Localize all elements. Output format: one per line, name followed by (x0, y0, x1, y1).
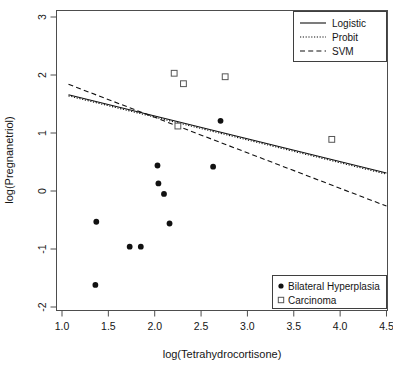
data-point (222, 74, 228, 80)
data-point (171, 70, 177, 76)
data-point (218, 118, 224, 124)
data-point (210, 164, 216, 170)
y-tick-label: 3 (36, 14, 48, 20)
y-tick-label: 1 (36, 130, 48, 136)
series-carcinoma-points (171, 70, 334, 142)
legend-marker-carcinoma (278, 297, 283, 302)
legend-model-fits: Logistic Probit SVM (294, 12, 387, 62)
chart-figure: 1.01.52.02.53.03.54.04.5 3210-1-2 log(Te… (0, 0, 393, 366)
fit-line-probit (68, 96, 386, 174)
legend-marker-bilateral-hyperplasia (278, 283, 283, 288)
x-tick-label: 1.0 (55, 320, 70, 332)
data-point (138, 244, 144, 250)
y-axis-ticks: 3210-1-2 (36, 14, 57, 312)
data-point (167, 221, 173, 227)
fit-lines-group (68, 84, 386, 206)
y-tick-label: 0 (36, 188, 48, 194)
y-tick-label: 2 (36, 72, 48, 78)
x-tick-label: 1.5 (101, 320, 116, 332)
x-tick-label: 2.5 (194, 320, 209, 332)
data-point (93, 219, 99, 225)
legend-label-probit: Probit (332, 32, 358, 43)
data-point (156, 181, 162, 187)
data-point (127, 244, 133, 250)
y-axis-title: log(Pregnanetriol) (3, 116, 15, 203)
legend-label-logistic: Logistic (332, 18, 366, 29)
legend-label-bilateral-hyperplasia: Bilateral Hyperplasia (288, 281, 380, 292)
y-tick-label: -1 (36, 244, 48, 253)
fit-line-logistic (68, 95, 386, 173)
x-tick-label: 4.5 (379, 320, 393, 332)
x-tick-label: 3.5 (286, 320, 301, 332)
x-axis-ticks: 1.01.52.02.53.03.54.04.5 (55, 311, 393, 333)
data-point (181, 81, 187, 87)
scatter-plot-svg: 1.01.52.02.53.03.54.04.5 3210-1-2 log(Te… (0, 0, 393, 366)
data-point (161, 191, 167, 197)
data-point (92, 282, 98, 288)
x-tick-label: 3.0 (240, 320, 255, 332)
legend-label-carcinoma: Carcinoma (288, 295, 337, 306)
x-tick-label: 2.0 (147, 320, 162, 332)
legend-classes: Bilateral Hyperplasia Carcinoma (273, 276, 387, 309)
data-point (175, 123, 181, 129)
x-axis-title: log(Tetrahydrocortisone) (163, 348, 282, 360)
fit-line-svm (68, 84, 386, 206)
y-tick-label: -2 (36, 302, 48, 311)
data-point (155, 163, 161, 169)
data-point (329, 136, 335, 142)
series-bilateral-hyperplasia-points (92, 118, 223, 288)
legend-label-svm: SVM (332, 46, 354, 57)
x-tick-label: 4.0 (333, 320, 348, 332)
